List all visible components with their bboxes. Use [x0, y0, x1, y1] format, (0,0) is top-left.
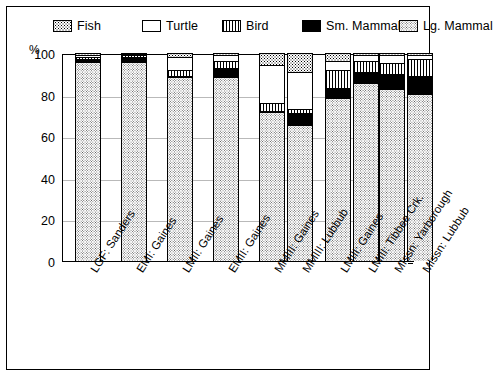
bar-segment-turtle [122, 54, 146, 55]
bar-segment-fish [380, 53, 404, 55]
bar-segment-sm-mammal [168, 76, 192, 78]
bar-segment-fish [122, 53, 146, 54]
bar-segment-turtle [326, 61, 350, 69]
bar-segment-turtle [288, 72, 312, 109]
bar-segment-bird [76, 57, 100, 59]
bar-segment-lg-mammal [76, 63, 100, 261]
legend-label: Bird [246, 19, 269, 33]
legend-swatch-icon [142, 20, 161, 32]
bar-segment-bird [122, 55, 146, 57]
bar-segment-turtle [354, 55, 378, 61]
legend-swatch-icon [302, 20, 321, 32]
y-axis-tick-label: 80 [21, 91, 55, 104]
chart-frame: FishTurtleBirdSm. MammalLg. Mammal % 100… [6, 6, 430, 370]
legend-label: Fish [77, 19, 101, 33]
bar-1 [75, 53, 101, 261]
bar-segment-fish [76, 53, 100, 55]
bar-segment-sm-mammal [76, 59, 100, 63]
legend-item-fish: Fish [53, 19, 101, 33]
bar-segment-bird [354, 61, 378, 71]
legend-item-sm-mammal: Sm. Mammal [302, 19, 401, 33]
bar-segment-lg-mammal [260, 113, 284, 261]
legend-item-bird: Bird [222, 19, 269, 33]
bar-segment-turtle [214, 55, 238, 61]
y-axis-tick-label: 20 [21, 215, 55, 228]
bar-segment-fish [408, 53, 432, 55]
bar-segment-bird [380, 63, 404, 73]
bar-segment-fish [288, 53, 312, 72]
bar-segment-fish [354, 53, 378, 55]
bar-segment-sm-mammal [260, 111, 284, 113]
legend-swatch-icon [222, 20, 241, 32]
bar-segment-sm-mammal [326, 88, 350, 98]
bar-segment-turtle [380, 55, 404, 63]
legend-item-turtle: Turtle [142, 19, 198, 33]
bar-segment-bird [260, 103, 284, 111]
bar-segment-turtle [168, 57, 192, 69]
bar-segment-sm-mammal [122, 57, 146, 63]
bar-segment-sm-mammal [214, 68, 238, 78]
bar-segment-lg-mammal [168, 78, 192, 261]
bar-segment-bird [408, 59, 432, 76]
legend-label: Turtle [166, 19, 198, 33]
y-axis-tick-label: 100 [21, 49, 55, 62]
bar-segment-fish [168, 53, 192, 57]
bar-segment-fish [214, 53, 238, 55]
y-axis-tick-label: 40 [21, 174, 55, 187]
legend-item-lg-mammal: Lg. Mammal [399, 19, 493, 33]
bar-segment-turtle [408, 55, 432, 59]
bar-segment-bird [214, 61, 238, 67]
bar-segment-sm-mammal [288, 113, 312, 125]
bar-segment-fish [326, 53, 350, 61]
y-axis-tick-label: 60 [21, 132, 55, 145]
x-axis-labels: LGF: SandersEMI: GainesLMII: GainesEMII:… [62, 262, 414, 372]
bar-segment-bird [288, 109, 312, 113]
bar-segment-bird [326, 70, 350, 89]
bar-segment-lg-mammal [214, 78, 238, 261]
legend-label: Lg. Mammal [423, 19, 493, 33]
bar-segment-fish [260, 53, 284, 65]
legend-label: Sm. Mammal [326, 19, 401, 33]
legend-swatch-icon [53, 20, 72, 32]
bar-segment-sm-mammal [380, 74, 404, 91]
bar-segment-turtle [260, 65, 284, 102]
chart-legend: FishTurtleBirdSm. MammalLg. Mammal [7, 19, 429, 41]
bar-segment-sm-mammal [408, 76, 432, 95]
legend-swatch-icon [399, 20, 418, 32]
y-axis-tick-label: 0 [21, 257, 55, 270]
bar-segment-bird [168, 70, 192, 76]
bar-segment-turtle [76, 55, 100, 57]
bar-segment-sm-mammal [354, 72, 378, 84]
